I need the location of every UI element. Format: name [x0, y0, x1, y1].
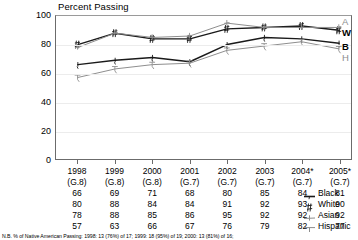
series-label-hispanic: H — [342, 52, 349, 63]
data-cell: 86 — [185, 210, 194, 220]
data-cell: 79 — [260, 221, 269, 231]
y-axis-tick-label: 40 — [1, 97, 51, 107]
data-cell: 88 — [110, 199, 119, 209]
data-table: 1998199920002001200220032004*2005*(G.8)(… — [0, 166, 358, 232]
gridline — [56, 132, 351, 133]
data-cell: 92 — [260, 210, 269, 220]
data-cell: 68 — [185, 188, 194, 198]
data-cell: 85 — [260, 188, 269, 198]
x-axis-tick — [340, 160, 341, 164]
data-cell: 92 — [260, 199, 269, 209]
y-axis-tick-label: 0 — [1, 155, 51, 165]
data-cell: 69 — [110, 188, 119, 198]
series-label-asian: A — [342, 16, 348, 27]
series-label-black: B — [342, 41, 349, 52]
data-cell: 67 — [185, 221, 194, 231]
data-cell: 88 — [110, 210, 119, 220]
data-cell: 66 — [147, 221, 156, 231]
legend-label-black: Black — [318, 188, 339, 198]
data-cell: 80 — [72, 199, 81, 209]
table-row-grades: (G.8)(G.8)(G.8)(G.7)(G.7)(G.7)(G.7)(G.7) — [0, 177, 358, 188]
data-cell: 80 — [223, 188, 232, 198]
chart-title: Percent Passing — [58, 1, 129, 12]
year-label: 2001 — [180, 166, 199, 176]
data-cell: 63 — [110, 221, 119, 231]
legend-marker-hispanic-icon — [303, 221, 317, 232]
y-axis-tick-label: 100 — [1, 10, 51, 20]
grade-label: (G.7) — [255, 177, 274, 187]
x-axis-tick — [302, 160, 303, 164]
y-axis-tick-label: 20 — [1, 126, 51, 136]
year-label: 1998 — [68, 166, 87, 176]
data-cell: 78 — [72, 210, 81, 220]
series-black — [77, 35, 339, 69]
legend-marker-asian-icon — [303, 210, 317, 221]
year-label: 1999 — [105, 166, 124, 176]
x-axis-tick — [227, 160, 228, 164]
series-label-white: W — [342, 27, 351, 38]
year-label: 2003 — [255, 166, 274, 176]
data-cell: 84 — [147, 199, 156, 209]
x-axis-tick — [77, 160, 78, 164]
x-axis-tick — [152, 160, 153, 164]
grade-label: (G.8) — [67, 177, 86, 187]
data-cell: 84 — [185, 199, 194, 209]
year-label: 2000 — [143, 166, 162, 176]
year-label: 2004* — [291, 166, 313, 176]
grade-label: (G.7) — [218, 177, 237, 187]
data-cell: 95 — [223, 210, 232, 220]
table-row-years: 1998199920002001200220032004*2005* — [0, 166, 358, 177]
legend-marker-white-icon — [303, 199, 317, 210]
data-cell: 71 — [147, 188, 156, 198]
data-cell: 57 — [72, 221, 81, 231]
y-axis-tick-label: 80 — [1, 39, 51, 49]
x-axis-tick — [190, 160, 191, 164]
year-label: 2002 — [218, 166, 237, 176]
x-axis-tick — [265, 160, 266, 164]
grade-label: (G.7) — [180, 177, 199, 187]
gridline — [56, 74, 351, 75]
legend-marker-black-icon — [303, 188, 317, 199]
grade-label: (G.8) — [142, 177, 161, 187]
table-row: 5763666776798277Hispanic — [0, 221, 358, 232]
gridline — [56, 45, 351, 46]
legend-label-hispanic: Hispanic — [318, 221, 351, 231]
y-axis: 020406080100 — [0, 15, 51, 160]
data-cell: 85 — [147, 210, 156, 220]
series-lines — [56, 16, 351, 159]
grade-label: (G.7) — [330, 177, 349, 187]
plot-area — [55, 15, 352, 160]
year-label: 2005* — [329, 166, 351, 176]
grade-label: (G.8) — [105, 177, 124, 187]
table-row: 6669716880858481Black — [0, 188, 358, 199]
table-row: 8088848491929390White — [0, 199, 358, 210]
legend-label-asian: Asian — [318, 210, 339, 220]
y-axis-tick-label: 60 — [1, 68, 51, 78]
data-cell: 76 — [223, 221, 232, 231]
table-row: 7888858695929292Asian — [0, 210, 358, 221]
grade-label: (G.7) — [293, 177, 312, 187]
legend-label-white: White — [318, 199, 340, 209]
x-axis-tick — [115, 160, 116, 164]
data-cell: 91 — [223, 199, 232, 209]
footnote: N.B. % of Native American Passing: 1998:… — [2, 233, 233, 239]
data-cell: 66 — [72, 188, 81, 198]
gridline — [56, 103, 351, 104]
